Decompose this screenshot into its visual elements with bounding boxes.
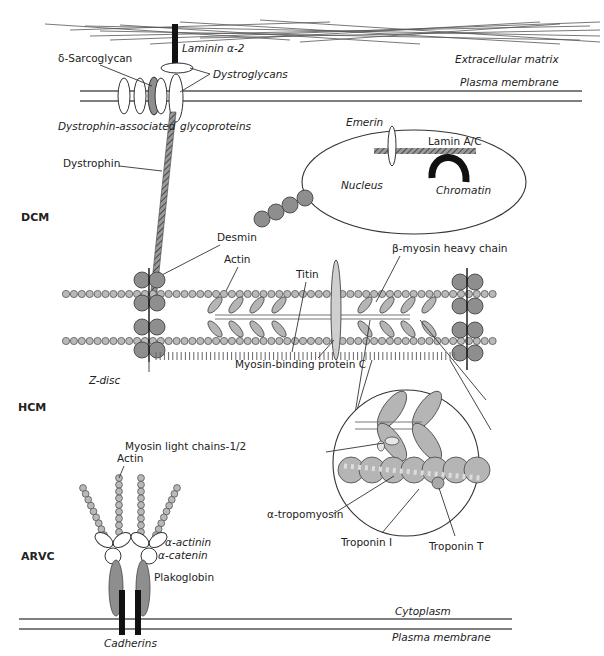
label-troponin-t: Troponin T: [428, 540, 484, 552]
label-plasma-membrane-bottom: Plasma membrane: [392, 631, 491, 643]
actin-filament-bottom: [62, 337, 496, 344]
label-nucleus: Nucleus: [341, 179, 383, 191]
myosin-thick-filament: [215, 315, 410, 319]
label-actin-sarcomere: Actin: [224, 253, 250, 265]
myosin-binding-protein-c: [331, 260, 341, 360]
label-dystrophin: Dystrophin: [63, 157, 120, 169]
label-plasma-membrane-top: Plasma membrane: [460, 76, 559, 88]
label-delta-sarcoglycan: δ-Sarcoglycan: [58, 52, 132, 64]
nucleus: [302, 130, 526, 234]
troponin-complex: [432, 477, 444, 489]
extracellular-matrix-mesh: [45, 20, 600, 44]
magnified-thin-filament: [333, 387, 490, 536]
z-disc-left: [134, 268, 165, 362]
label-titin: Titin: [295, 268, 319, 280]
region-arvc: ARVC: [21, 550, 55, 563]
label-alpha-catenin: α-catenin: [158, 549, 208, 561]
label-dystroglycans: Dystroglycans: [213, 68, 288, 80]
actin-filament-top: [62, 290, 496, 297]
label-myosin-light-chains: Myosin light chains-1/2: [125, 440, 246, 452]
label-actin-arvc: Actin: [117, 452, 143, 464]
laminin-alpha2-bar: [172, 24, 178, 64]
dystrophin-rod: [150, 112, 176, 300]
label-emerin: Emerin: [346, 116, 383, 128]
label-glycoproteins: glycoproteins: [180, 120, 252, 132]
label-cadherins: Cadherins: [104, 637, 157, 649]
label-extracellular-matrix: Extracellular matrix: [455, 53, 559, 65]
myosin-heads: [206, 295, 439, 339]
label-troponin-i: Troponin I: [340, 536, 392, 548]
desmin-filament: [254, 190, 313, 227]
cardiomyopathy-diagram: Laminin α-2 Extracellular matrix Plasma …: [0, 0, 604, 656]
label-beta-myosin: β-myosin heavy chain: [392, 242, 508, 254]
label-lamin-ac: Lamin A/C: [428, 135, 481, 147]
label-alpha-tropomyosin: α-tropomyosin: [267, 508, 343, 520]
label-alpha-actinin: α-actinin: [165, 536, 211, 548]
emerin: [388, 126, 396, 166]
label-desmin: Desmin: [217, 231, 257, 243]
arvc-actin-filaments: [80, 475, 181, 539]
z-disc-right: [452, 268, 483, 370]
label-mybpc: Myosin-binding protein C: [235, 358, 366, 370]
region-hcm: HCM: [18, 401, 46, 414]
label-laminin: Laminin α-2: [182, 42, 245, 54]
cadherins: [119, 590, 141, 635]
label-chromatin: Chromatin: [436, 184, 491, 196]
label-dystrophin-associated: Dystrophin-associated: [58, 120, 176, 132]
region-dcm: DCM: [21, 211, 49, 224]
label-plakoglobin: Plakoglobin: [154, 571, 214, 583]
sarcoglycan-complex: [118, 63, 193, 122]
plakoglobin: [109, 560, 150, 616]
label-cytoplasm: Cytoplasm: [395, 605, 451, 617]
label-z-disc: Z-disc: [88, 374, 121, 386]
